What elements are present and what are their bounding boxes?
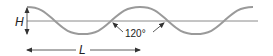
angle-label: 120° xyxy=(125,28,146,39)
length-label: L xyxy=(79,43,86,56)
angle-pointer-right xyxy=(153,23,164,32)
angle-pointer-left xyxy=(113,23,123,32)
height-label: H xyxy=(15,15,24,29)
wave-diagram: H 120° L xyxy=(0,0,273,56)
